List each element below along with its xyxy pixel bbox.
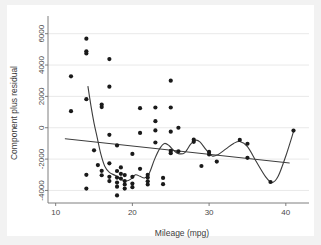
- data-point: [130, 185, 134, 189]
- y-tick-label: 4000: [37, 56, 46, 74]
- data-point: [130, 152, 134, 156]
- data-point: [146, 176, 150, 180]
- data-point: [100, 169, 104, 173]
- data-point: [199, 164, 203, 168]
- data-point: [153, 119, 157, 123]
- data-point: [119, 176, 123, 180]
- data-point: [169, 79, 173, 83]
- data-point: [69, 74, 73, 78]
- data-point: [146, 182, 150, 186]
- data-point: [268, 180, 272, 184]
- data-point: [107, 133, 111, 137]
- x-tick-label: 40: [281, 208, 290, 217]
- data-point: [207, 152, 211, 156]
- data-point: [107, 57, 111, 61]
- data-point: [245, 142, 249, 146]
- data-point: [115, 181, 119, 185]
- data-point: [84, 173, 88, 177]
- data-point: [115, 169, 119, 173]
- data-point: [123, 182, 127, 186]
- lowess-curve: [88, 86, 294, 182]
- data-point: [119, 165, 123, 169]
- y-tick-label: 2000: [37, 87, 46, 105]
- data-point: [100, 105, 104, 109]
- chart-canvas: 10203040 -4000-20000200040006000 Mileage…: [0, 0, 321, 245]
- data-point: [153, 140, 157, 144]
- data-point: [115, 143, 119, 147]
- data-point: [169, 130, 173, 134]
- y-axis-title: Component plus residual: [9, 66, 19, 160]
- data-point: [119, 172, 123, 176]
- data-point: [84, 51, 88, 55]
- data-point: [107, 161, 111, 165]
- data-point: [130, 175, 134, 179]
- scatter-points: [69, 37, 296, 198]
- data-point: [161, 182, 165, 186]
- data-point: [169, 151, 173, 155]
- x-tick-labels: 10203040: [51, 208, 291, 217]
- data-point: [92, 148, 96, 152]
- x-tick-label: 20: [128, 208, 137, 217]
- data-point: [96, 163, 100, 167]
- data-point: [176, 126, 180, 130]
- data-point: [138, 106, 142, 110]
- data-point: [192, 140, 196, 144]
- data-point: [69, 109, 73, 113]
- data-point: [130, 181, 134, 185]
- data-point: [215, 160, 219, 164]
- y-tick-label: -2000: [37, 148, 46, 169]
- y-tick-label: 0: [37, 125, 46, 130]
- data-point: [123, 173, 127, 177]
- data-point: [176, 149, 180, 153]
- data-point: [100, 173, 104, 177]
- data-point: [84, 37, 88, 41]
- data-point: [245, 156, 249, 160]
- data-point: [138, 131, 142, 135]
- y-tick-label: 6000: [37, 24, 46, 42]
- data-point: [107, 85, 111, 89]
- gridlines: [48, 34, 309, 191]
- data-point: [169, 105, 173, 109]
- data-point: [291, 128, 295, 132]
- data-point: [115, 176, 119, 180]
- data-point: [161, 176, 165, 180]
- data-point: [123, 186, 127, 190]
- x-tick-label: 30: [205, 208, 214, 217]
- x-tick-label: 10: [51, 208, 60, 217]
- data-point: [138, 167, 142, 171]
- y-tick-label: -4000: [37, 180, 46, 201]
- y-tick-labels: -4000-20000200040006000: [37, 24, 46, 200]
- data-point: [153, 105, 157, 109]
- data-point: [153, 128, 157, 132]
- data-point: [107, 175, 111, 179]
- data-point: [115, 193, 119, 197]
- data-point: [115, 185, 119, 189]
- data-point: [107, 179, 111, 183]
- data-point: [84, 186, 88, 190]
- data-point: [238, 138, 242, 142]
- x-axis-title: Mileage (mpg): [155, 228, 209, 238]
- data-point: [84, 97, 88, 101]
- chart-figure: 10203040 -4000-20000200040006000 Mileage…: [0, 0, 321, 245]
